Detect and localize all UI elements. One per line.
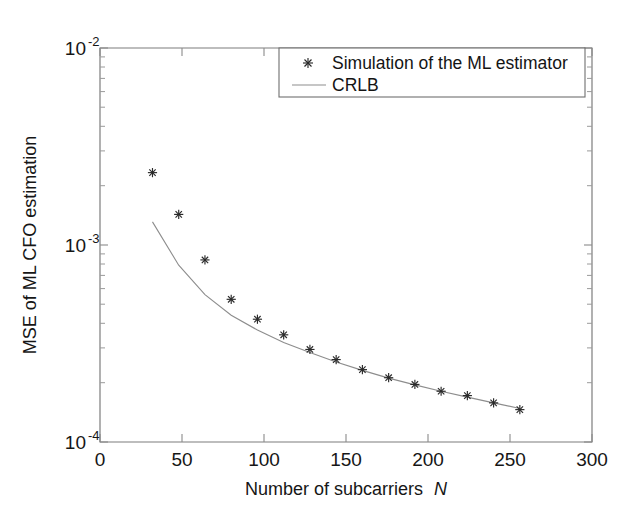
y-axis-title: MSE of ML CFO estimation (20, 136, 40, 354)
x-axis-title-text: Number of subcarriers (245, 479, 423, 499)
chart-canvas: 050100150200250300 10 -2 10 -3 10 -4 Num… (0, 0, 639, 510)
data-point-marker (463, 391, 472, 400)
y-tick-label-0-mantissa: 10 (65, 432, 86, 453)
y-tick-label-1-mantissa: 10 (65, 235, 86, 256)
legend-label-simulation: Simulation of the ML estimator (332, 53, 568, 73)
data-point-marker (515, 405, 524, 414)
crlb-line (152, 222, 519, 409)
x-tick-label-3: 150 (330, 449, 362, 470)
legend-label-crlb: CRLB (332, 75, 379, 95)
x-tick-label-1: 50 (171, 449, 192, 470)
y-axis-ticks (100, 48, 592, 442)
data-point-marker (358, 365, 367, 374)
x-axis-ticks (100, 48, 592, 442)
figure-container: 050100150200250300 10 -2 10 -3 10 -4 Num… (0, 0, 639, 510)
data-point-marker (384, 373, 393, 382)
crlb-series (152, 222, 519, 409)
x-tick-label-4: 200 (412, 449, 444, 470)
y-tick-label-1-exponent: -3 (88, 231, 100, 246)
x-tick-labels: 050100150200250300 (95, 449, 608, 470)
y-tick-label-0-exponent: -4 (88, 428, 100, 443)
data-point-marker (253, 315, 262, 324)
y-tick-label-2-exponent: -2 (88, 34, 100, 49)
data-point-marker (437, 387, 446, 396)
x-tick-label-0: 0 (95, 449, 106, 470)
data-point-marker (489, 398, 498, 407)
x-axis-title: Number of subcarriers N (245, 479, 448, 499)
data-point-marker (148, 168, 157, 177)
legend-marker-simulation (303, 58, 313, 68)
x-axis-title-symbol: N (434, 479, 448, 499)
y-tick-label-2-mantissa: 10 (65, 38, 86, 59)
legend: Simulation of the ML estimator CRLB (279, 48, 585, 97)
data-point-marker (227, 295, 236, 304)
simulation-series (148, 168, 525, 414)
data-point-marker (279, 330, 288, 339)
x-tick-label-2: 100 (248, 449, 280, 470)
y-tick-labels: 10 -2 10 -3 10 -4 (65, 34, 100, 453)
data-point-marker (305, 345, 314, 354)
plot-frame (100, 48, 592, 442)
x-tick-label-5: 250 (494, 449, 526, 470)
data-point-marker (410, 380, 419, 389)
x-tick-label-6: 300 (576, 449, 608, 470)
data-point-marker (174, 210, 183, 219)
data-point-marker (200, 255, 209, 264)
